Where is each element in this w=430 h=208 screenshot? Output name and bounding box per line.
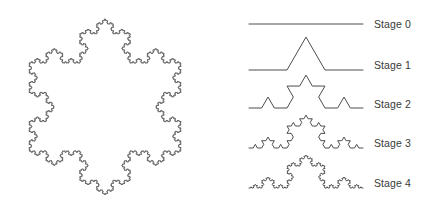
koch-snowflake-path [29,19,181,195]
stage-label-3: Stage 3 [374,138,411,149]
koch-curve-stage-2 [249,75,363,108]
stage-label-0: Stage 0 [374,19,411,30]
snowflake-svg [0,0,215,208]
snowflake-panel [0,0,215,208]
stage-label-4: Stage 4 [374,178,411,189]
stage-label-1: Stage 1 [374,60,411,71]
stages-panel: Stage 0Stage 1Stage 2Stage 3Stage 4 [215,0,430,208]
koch-curve-stage-4 [249,155,363,188]
stage-label-2: Stage 2 [374,99,411,110]
koch-curve-stage-1 [249,37,363,70]
koch-curve-stage-3 [249,115,363,148]
stage-curve-group [249,24,363,188]
koch-snowflake-figure: Stage 0Stage 1Stage 2Stage 3Stage 4 [0,0,430,208]
